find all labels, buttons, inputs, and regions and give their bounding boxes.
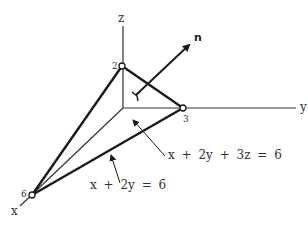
y-axis-label: y: [300, 101, 307, 113]
plane-triangle: [32, 66, 183, 195]
x-axis-label: x: [11, 205, 18, 217]
trace-equation: x + 2y = 6: [90, 179, 166, 191]
z-intercept-point: [119, 63, 125, 69]
normal-vector-label: n: [194, 32, 202, 43]
pointer-arrows: [111, 120, 165, 183]
normal-vector-shaft: [136, 45, 189, 95]
edge-z-x: [32, 66, 122, 195]
y-intercept-label: 3: [183, 115, 189, 124]
plane-diagram: [0, 0, 308, 229]
z-axis-label: z: [118, 12, 124, 24]
x-intercept-label: 6: [21, 190, 27, 199]
plane-pointer-arrow: [133, 120, 165, 156]
plane-equation: x + 2y + 3z = 6: [168, 149, 282, 161]
edge-z-y: [122, 66, 183, 108]
z-intercept-label: 2: [112, 62, 118, 71]
y-intercept-point: [180, 105, 186, 111]
x-intercept-point: [29, 192, 35, 198]
